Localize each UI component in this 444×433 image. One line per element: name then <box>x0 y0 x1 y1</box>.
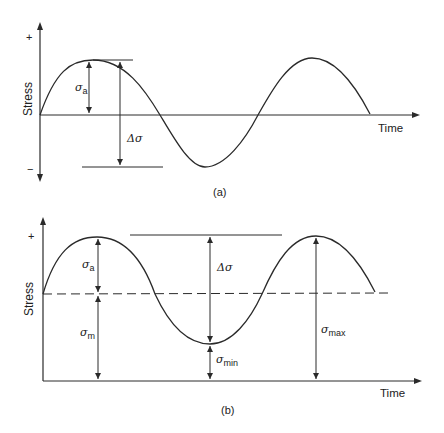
mean-stress-line-b <box>43 293 390 294</box>
sigma-a-label-b: σa <box>82 258 95 273</box>
plus-sign-b: + <box>28 230 34 242</box>
x-axis-label-a: Time <box>378 122 403 134</box>
y-axis-label-b: Stress <box>22 282 36 316</box>
delta-sigma-label-b: Δσ <box>216 261 233 274</box>
plus-sign-a: + <box>26 31 32 43</box>
panel-a: + − Stress Time σa Δσ (a) <box>21 26 416 198</box>
caption-a: (a) <box>213 186 226 198</box>
fatigue-stress-diagram: + − Stress Time σa Δσ (a) + Stress T <box>0 0 444 433</box>
sigma-a-label-a: σa <box>75 81 88 96</box>
x-axis-label-b: Time <box>380 387 405 399</box>
y-axis-label-a: Stress <box>21 82 35 116</box>
panel-b: + Stress Time σa σm Δσ σmin σmax (b) <box>22 221 418 416</box>
minus-sign-a: − <box>27 163 33 175</box>
sigma-max-label-b: σmax <box>321 323 346 338</box>
delta-sigma-label-a: Δσ <box>126 132 143 145</box>
sigma-min-label-b: σmin <box>216 353 238 368</box>
caption-b: (b) <box>221 404 234 416</box>
sigma-m-label-b: σm <box>80 326 95 341</box>
